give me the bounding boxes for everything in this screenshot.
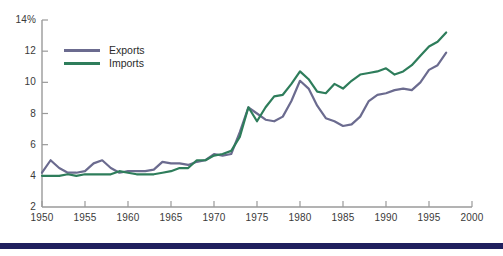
bottom-rule [0, 243, 503, 249]
legend-label-imports: Imports [109, 57, 144, 70]
x-tick-label: 1950 [22, 212, 62, 223]
x-tick-label: 1955 [65, 212, 105, 223]
chart-container: 2468101214% 1950195519601965197019751980… [0, 0, 503, 256]
chart-legend: Exports Imports [64, 44, 145, 70]
legend-label-exports: Exports [109, 44, 145, 57]
x-tick-label: 1975 [237, 212, 277, 223]
x-tick-label: 1985 [323, 212, 363, 223]
y-tick-label: 8 [0, 108, 36, 119]
y-tick-label: 4 [0, 170, 36, 181]
x-tick-label: 1990 [366, 212, 406, 223]
legend-swatch-exports [64, 49, 100, 52]
x-tick-label: 1965 [151, 212, 191, 223]
y-tick-label: 2 [0, 201, 36, 212]
x-tick-label: 1970 [194, 212, 234, 223]
x-tick-label: 1980 [280, 212, 320, 223]
x-tick-label: 2000 [452, 212, 492, 223]
legend-swatch-imports [64, 62, 100, 65]
x-tick-label: 1960 [108, 212, 148, 223]
y-tick-label: 12 [0, 45, 36, 56]
legend-item-exports: Exports [64, 44, 145, 57]
y-tick-label: 10 [0, 76, 36, 87]
x-tick-label: 1995 [409, 212, 449, 223]
legend-item-imports: Imports [64, 57, 145, 70]
y-tick-label: 6 [0, 139, 36, 150]
y-tick-label: 14% [0, 14, 36, 25]
